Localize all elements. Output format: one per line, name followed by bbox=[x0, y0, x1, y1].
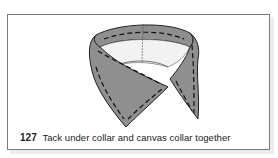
figure-number: 127 bbox=[20, 132, 37, 143]
collar-illustration bbox=[8, 15, 271, 151]
figure-caption-text: Tack under collar and canvas collar toge… bbox=[42, 132, 230, 143]
figure-caption: 127 Tack under collar and canvas collar … bbox=[20, 132, 230, 143]
figure-frame: 127 Tack under collar and canvas collar … bbox=[7, 14, 270, 150]
